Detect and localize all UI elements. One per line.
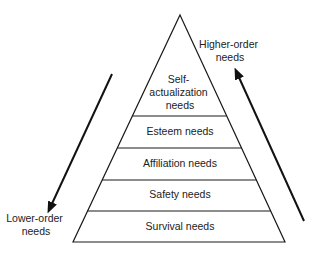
higher-order-line-1: Higher-order <box>199 38 258 50</box>
higher-order-arrow-icon <box>237 73 304 221</box>
lower-order-arrow-icon <box>50 74 112 208</box>
level-safety-label: Safety needs <box>149 188 210 200</box>
level-affiliation-label: Affiliation needs <box>143 157 217 169</box>
level-self-actualization-line-3: needs <box>166 99 195 111</box>
lower-order-needs-label: Lower-order needs <box>6 212 66 237</box>
lower-order-line-1: Lower-order <box>6 212 63 224</box>
higher-order-line-2: needs <box>216 51 245 63</box>
level-self-actualization-line-1: Self- <box>168 73 190 85</box>
level-self-actualization-label: Self- actualization needs <box>149 73 210 111</box>
level-esteem-label: Esteem needs <box>146 125 213 137</box>
level-self-actualization-line-2: actualization <box>149 86 208 98</box>
needs-hierarchy-pyramid: Self- actualization needs Esteem needs A… <box>0 0 323 257</box>
higher-order-needs-label: Higher-order needs <box>199 38 261 63</box>
level-survival-label: Survival needs <box>146 220 215 232</box>
lower-order-line-2: needs <box>22 225 51 237</box>
